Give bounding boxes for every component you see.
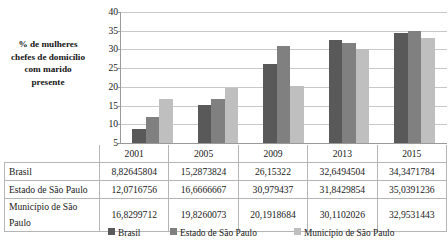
bar-estado-de-são-paulo-2015	[408, 31, 422, 143]
bar-município-de-são-paulo-2001	[159, 99, 173, 143]
table-cell-brasil-2001: 8,82645804	[100, 163, 169, 181]
table-header-2015: 2015	[377, 145, 446, 163]
data-table: 2001 2005 2009 2013 2015 Brasil 8,826458…	[4, 145, 447, 232]
y-tick-mark-25	[118, 68, 121, 69]
bar-brasil-2009	[263, 64, 277, 143]
bar-group-2009	[251, 12, 316, 143]
bar-estado-de-são-paulo-2005	[211, 99, 225, 143]
y-tick-mark-30	[118, 49, 121, 50]
bar-município-de-são-paulo-2013	[356, 49, 370, 143]
bar-group-2001	[120, 12, 185, 143]
bar-brasil-2013	[329, 40, 343, 143]
y-tick-mark-20	[118, 87, 121, 88]
table-cell-brasil-2009: 26,15322	[238, 163, 307, 181]
table-cell-brasil-2015: 34,3471784	[377, 163, 446, 181]
table-row-label-estado: Estado de São Paulo	[5, 181, 100, 199]
bar-brasil-2015	[394, 33, 408, 143]
y-axis-tick-labels: 510152025303540	[92, 12, 118, 144]
bar-group-2015	[382, 12, 447, 143]
table-row-label-municipio: Município de São Paulo	[5, 199, 100, 232]
table-cell-estado-2013: 31,8429854	[308, 181, 377, 199]
legend-label: Brasil	[118, 228, 140, 238]
table-header-2009: 2009	[238, 145, 307, 163]
bar-estado-de-são-paulo-2013	[342, 43, 356, 143]
bar-estado-de-são-paulo-2001	[146, 117, 160, 143]
y-axis-title-line-1: % de mulheres	[2, 38, 94, 51]
table-header-2001: 2001	[100, 145, 169, 163]
x-axis-line	[120, 143, 448, 144]
y-tick-mark-40	[118, 12, 121, 13]
y-tick-label-10: 10	[96, 119, 118, 129]
y-tick-label-30: 30	[96, 44, 118, 54]
legend-swatch-icon	[170, 228, 177, 235]
table-cell-estado-2009: 30,979437	[238, 181, 307, 199]
legend-item-município-de-são-paulo[interactable]: Município de São Paulo	[294, 226, 394, 239]
table-header-2013: 2013	[308, 145, 377, 163]
bar-município-de-são-paulo-2009	[290, 86, 304, 143]
chart-legend: BrasilEstado de São PauloMunicípio de Sã…	[108, 226, 448, 238]
table-corner-cell	[5, 145, 100, 163]
table-header-2005: 2005	[169, 145, 238, 163]
plot-area	[120, 12, 447, 144]
table-cell-estado-2001: 12,0716756	[100, 181, 169, 199]
y-tick-mark-5	[118, 143, 121, 144]
table-cell-brasil-2005: 15,2873824	[169, 163, 238, 181]
y-tick-mark-35	[118, 31, 121, 32]
y-tick-label-35: 35	[96, 26, 118, 36]
y-tick-label-15: 15	[96, 101, 118, 111]
y-axis-title-line-3: com marido	[2, 63, 94, 76]
legend-label: Município de São Paulo	[304, 228, 394, 238]
y-tick-mark-15	[118, 106, 121, 107]
legend-swatch-icon	[108, 228, 115, 235]
bar-município-de-são-paulo-2015	[421, 38, 435, 143]
table-row: Brasil 8,82645804 15,2873824 26,15322 32…	[5, 163, 447, 181]
table-header-row: 2001 2005 2009 2013 2015	[5, 145, 447, 163]
bar-brasil-2001	[132, 129, 146, 143]
y-axis-title: % de mulheres chefes de domicílio com ma…	[2, 38, 94, 88]
legend-swatch-icon	[294, 228, 301, 235]
legend-item-brasil[interactable]: Brasil	[108, 226, 140, 239]
bar-município-de-são-paulo-2005	[225, 88, 239, 143]
y-tick-label-25: 25	[96, 63, 118, 73]
table-row-label-brasil: Brasil	[5, 163, 100, 181]
bar-brasil-2005	[198, 105, 212, 144]
table-cell-estado-2005: 16,6666667	[169, 181, 238, 199]
y-axis-title-line-4: presente	[2, 76, 94, 89]
y-tick-label-40: 40	[96, 7, 118, 17]
table-cell-estado-2015: 35,0391236	[377, 181, 446, 199]
bar-estado-de-são-paulo-2009	[277, 46, 291, 143]
y-tick-label-20: 20	[96, 82, 118, 92]
bar-group-2013	[316, 12, 381, 143]
table-cell-brasil-2013: 32,6494504	[308, 163, 377, 181]
table-row: Estado de São Paulo 12,0716756 16,666666…	[5, 181, 447, 199]
legend-label: Estado de São Paulo	[180, 228, 257, 238]
legend-item-estado-de-são-paulo[interactable]: Estado de São Paulo	[170, 226, 257, 239]
chart-figure: % de mulheres chefes de domicílio com ma…	[0, 0, 448, 241]
y-tick-mark-10	[118, 124, 121, 125]
bar-group-2005	[185, 12, 250, 143]
y-axis-title-line-2: chefes de domicílio	[2, 51, 94, 64]
